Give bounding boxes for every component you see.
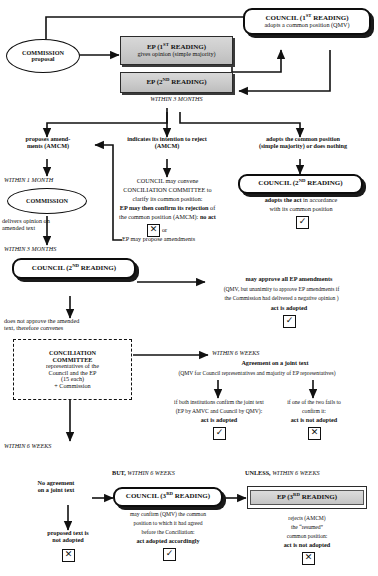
label-common-position-no-act: the common position (AMCM): no act (98, 214, 237, 221)
mark-ep-3rd-not-adopted: ✕ (302, 552, 315, 565)
node-ep-third-reading[interactable]: EP (3RD READING) (247, 486, 367, 509)
label-one-fails-2: confirm it: (258, 408, 370, 414)
conciliation-line-6: + Commission (54, 383, 90, 390)
label-council-3rd-3: before the Conciliation: (108, 529, 228, 535)
label-proposed-text-not-adopted: proposed text is not adopted (20, 530, 116, 544)
label-but-within-6-weeks: BUT, WITHIN 6 WEEKS (112, 470, 242, 477)
label-may-approve-qmv: (QMV, but unanimity to approve EP amendm… (185, 286, 378, 292)
node-commission-opinion[interactable]: COMMISSION (7, 188, 87, 214)
node-council-third-reading[interactable]: COUNCIL (3RD READING) (113, 487, 223, 507)
label-does-not-approve: does not approve the amended text, there… (4, 318, 128, 332)
label-one-fails-1: if one of the two fails to (258, 399, 370, 405)
mark-both-confirm-adopted: ✓ (213, 427, 226, 440)
label-council-3rd-1: may confirm (QMV) the common (108, 511, 228, 517)
label-agreement-joint-text: Agreement on a joint text (180, 360, 370, 367)
ep-third-reading-title: EP (3RD READING) (277, 494, 337, 501)
label-branch-adopts-common-position: adopts the common position (simple major… (233, 136, 373, 150)
label-within-3-months-second: WITHIN 3 MONTHS (4, 246, 114, 253)
label-within-3-months-top: WITHIN 3 MONTHS (120, 96, 233, 103)
label-council-convene-2: CONCILIATION COMMITTEE to (100, 187, 235, 194)
node-ep-second-reading[interactable]: EP (2ND READING) (120, 72, 233, 93)
mark-one-fails-not-adopted: ✕ (308, 427, 321, 440)
label-ep-3rd-act-not-adopted: act is not adopted (250, 542, 364, 549)
ep-first-reading-sub: gives opinion (simple majority) (137, 51, 215, 58)
label-within-6-weeks-left: WITHIN 6 WEEKS (4, 443, 114, 450)
label-ep-propose-amendments: EP may propose amendments (122, 236, 252, 243)
label-council-2nd-with-common-position: with its common position (233, 206, 369, 213)
node-commission-proposal[interactable]: COMMISSION proposal (6, 39, 80, 73)
label-council-3rd-2: position to which it had agreed (108, 520, 228, 526)
label-council-2nd-adopts-act: adopts the act in accordance (233, 197, 369, 204)
commission-proposal-subtitle: proposal (32, 56, 55, 63)
ep-second-reading-title: EP (2ND READING) (146, 79, 206, 86)
label-unless-within-6-weeks: UNLESS, WITHIN 6 WEEKS (245, 470, 377, 477)
label-one-fails-act-not-adopted: act is not adopted (258, 417, 370, 424)
label-no-agreement-joint-text: No agreement on a joint text (20, 480, 92, 494)
label-ep-3rd-1: rejects (AMCM) (250, 515, 364, 521)
node-conciliation-committee[interactable]: CONCILIATION COMMITTEE representatives o… (13, 339, 132, 400)
council-second-reading-left-title: COUNCIL (2ND READING) (32, 265, 116, 272)
node-council-second-reading-left[interactable]: COUNCIL (2ND READING) (12, 258, 136, 279)
label-council-convene-1: COUNCIL may convene (100, 178, 235, 185)
label-may-approve-negative-opinion: the Commission had delivered a negative … (185, 295, 378, 301)
label-agreement-qmv-majority: (QMV for Council representatives and maj… (136, 370, 378, 376)
mark-council-3rd-adopted: ✓ (163, 548, 176, 561)
label-ep-3rd-3: common position: (250, 533, 364, 539)
council-first-reading-sub: adopts a common position (QMV) (264, 22, 349, 29)
mark-council-2nd-adopted: ✓ (296, 216, 309, 229)
label-council-convene-3: clarify its common position: (100, 196, 235, 203)
mark-proposed-not-adopted: ✕ (62, 549, 75, 562)
label-commission-delivers-opinion: delivers opinion on amended text (2, 218, 94, 232)
node-council-first-reading[interactable]: COUNCIL (1ST READING) adopts a common po… (243, 8, 371, 35)
label-branch-intention-reject: indicates its intention to reject (AMCM) (106, 136, 228, 150)
mark-may-approve-adopted: ✓ (283, 315, 296, 328)
label-branch-proposes-amendments: proposes amend- ments (AMCM) (8, 136, 88, 150)
label-council-3rd-act-adopted: act adopted accordingly (108, 538, 228, 545)
commission-opinion-title: COMMISSION (26, 198, 68, 205)
label-within-1-month: WITHIN 1 MONTH (4, 177, 96, 184)
label-ep-3rd-2: the “resumed” (250, 524, 364, 530)
label-within-6-weeks-conciliation: WITHIN 6 WEEKS (212, 350, 322, 357)
label-ep-confirm-rejection: EP may then confirm its rejection of (98, 205, 237, 212)
council-third-reading-title: COUNCIL (3RD READING) (126, 493, 210, 500)
diagram-canvas: COMMISSION proposal EP (1ST READING) giv… (0, 0, 378, 576)
node-council-second-reading-right[interactable]: COUNCIL (2ND READING) (238, 174, 363, 194)
label-or: or (162, 227, 182, 234)
node-ep-first-reading[interactable]: EP (1ST READING) gives opinion (simple m… (120, 36, 233, 65)
label-act-is-adopted-approve: act is adopted (205, 305, 373, 312)
label-may-approve-all-amendments: may approve all EP amendments (205, 276, 373, 283)
council-second-reading-right-title: COUNCIL (2ND READING) (258, 180, 342, 187)
